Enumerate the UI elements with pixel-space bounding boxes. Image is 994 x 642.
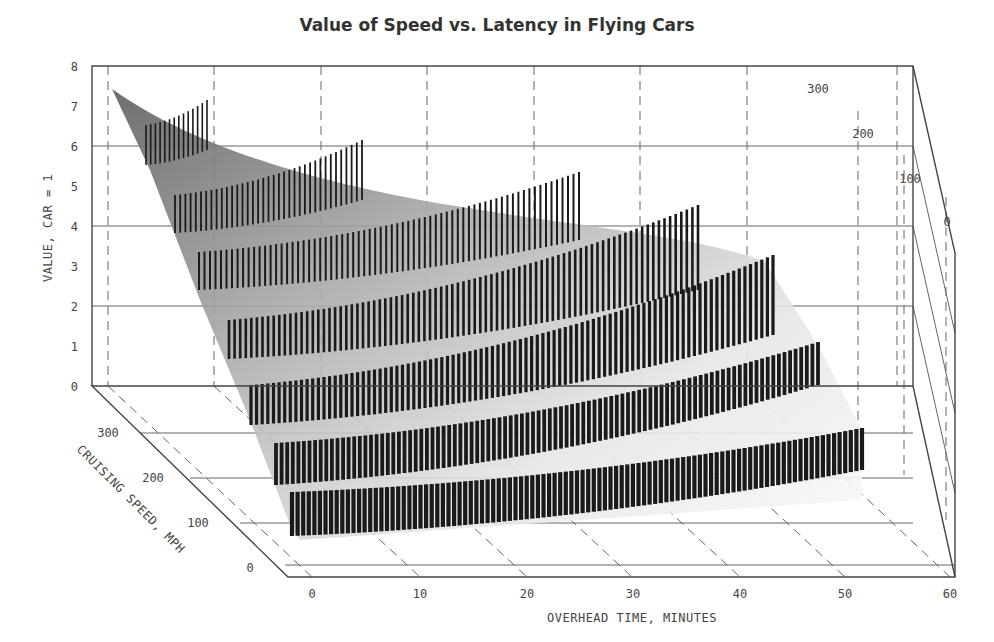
svg-text:0: 0 — [308, 587, 315, 601]
chart-canvas: Value of Speed vs. Latency in Flying Car… — [0, 0, 994, 642]
y-axis-ticks: 0 1 2 3 4 5 6 7 8 — [71, 60, 78, 394]
x-axis-ticks: 0 10 20 30 40 50 60 — [308, 587, 957, 601]
svg-text:300: 300 — [97, 426, 119, 440]
svg-text:200: 200 — [142, 471, 164, 485]
svg-text:300: 300 — [807, 82, 829, 96]
svg-text:1: 1 — [71, 340, 78, 354]
svg-text:20: 20 — [520, 587, 534, 601]
svg-text:8: 8 — [71, 60, 78, 74]
svg-text:0: 0 — [943, 215, 950, 229]
z-axis-ticks-right: 0 100 200 300 — [807, 82, 950, 229]
svg-text:4: 4 — [71, 220, 78, 234]
svg-text:7: 7 — [71, 100, 78, 114]
svg-text:100: 100 — [187, 516, 209, 530]
svg-text:10: 10 — [413, 587, 427, 601]
svg-text:60: 60 — [943, 587, 957, 601]
svg-text:100: 100 — [899, 172, 921, 186]
svg-text:2: 2 — [71, 300, 78, 314]
svg-text:6: 6 — [71, 140, 78, 154]
svg-text:40: 40 — [733, 587, 747, 601]
svg-text:0: 0 — [71, 380, 78, 394]
svg-text:0: 0 — [246, 561, 253, 575]
svg-text:3: 3 — [71, 260, 78, 274]
z-axis-label: CRUISING SPEED, MPH — [74, 442, 188, 556]
x-axis-label: OVERHEAD TIME, MINUTES — [547, 611, 717, 625]
y-axis-label: VALUE, CAR = 1 — [41, 174, 55, 282]
svg-text:30: 30 — [626, 587, 640, 601]
svg-text:50: 50 — [838, 587, 852, 601]
svg-text:200: 200 — [852, 127, 874, 141]
svg-text:5: 5 — [71, 180, 78, 194]
chart-title: Value of Speed vs. Latency in Flying Car… — [299, 15, 694, 35]
